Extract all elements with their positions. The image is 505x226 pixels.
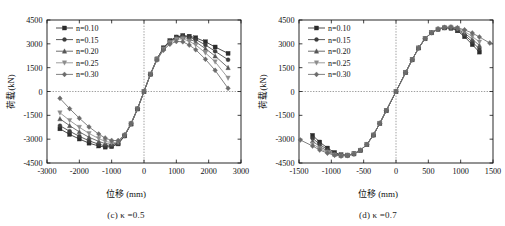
legend-label-n=0.15: n=0.15 [328,36,351,45]
panel-c: -3000-2000-10000100020003000-4500-3000-1… [0,0,252,226]
caption-panel-d: (d) κ =0.7 [252,210,504,220]
y-axis-tick-label: -1500 [23,111,42,120]
x-axis-tick-label: 1500 [485,167,501,176]
legend-label-n=0.25: n=0.25 [76,59,99,68]
y-axis-tick-label: 0 [38,88,42,97]
data-point-marker-square [63,26,67,30]
legend-label-n=0.10: n=0.10 [76,24,99,33]
x-axis-tick-label: 0 [394,167,398,176]
y-axis-tick-label: 3000 [26,40,42,49]
caption-panel-c: (c) κ =0.5 [0,210,252,220]
x-axis-title-panel-d: 位移 (mm) [252,187,504,200]
x-axis-tick-label: 1000 [452,167,468,176]
y-axis-tick-label: -1500 [275,111,294,120]
data-point-marker-circle [213,49,217,53]
legend-label-n=0.25: n=0.25 [328,59,351,68]
y-axis-tick-label: -3000 [23,135,42,144]
y-axis-tick-label: 1500 [26,64,42,73]
x-axis-tick-label: -500 [356,167,371,176]
data-point-marker-circle [315,38,319,42]
legend-label-n=0.20: n=0.20 [328,47,351,56]
x-axis-tick-label: 0 [142,167,146,176]
data-point-marker-square [226,51,230,55]
panel-d: -1500-1000-500050010001500-4500-3000-150… [252,0,504,226]
x-axis-tick-label: 3000 [233,167,249,176]
y-axis-tick-label: -4500 [275,159,294,168]
data-point-marker-square [315,26,319,30]
y-axis-tick-label: 3000 [278,40,294,49]
x-axis-title-panel-c: 位移 (mm) [0,187,252,200]
figure-container: -3000-2000-10000100020003000-4500-3000-1… [0,0,505,226]
y-axis-tick-label: -3000 [275,135,294,144]
x-axis-tick-label: -1000 [322,167,341,176]
y-axis-title: 荷载(kN) [257,74,268,108]
x-axis-tick-label: -2000 [70,167,89,176]
data-point-marker-circle [68,129,72,133]
data-point-marker-circle [63,38,67,42]
data-point-marker-square [213,45,217,49]
legend-label-n=0.30: n=0.30 [76,70,99,79]
legend-label-n=0.10: n=0.10 [328,24,351,33]
data-point-marker-circle [77,134,81,138]
y-axis-tick-label: 4500 [26,16,42,25]
x-axis-tick-label: 500 [422,167,434,176]
y-axis-title: 荷载(kN) [5,74,16,108]
legend-label-n=0.30: n=0.30 [328,70,351,79]
legend-label-n=0.15: n=0.15 [76,36,99,45]
data-point-marker-circle [58,124,62,128]
y-axis-tick-label: 1500 [278,64,294,73]
y-axis-tick-label: -4500 [23,159,42,168]
data-point-marker-circle [226,58,230,62]
x-axis-tick-label: 1000 [168,167,184,176]
legend-label-n=0.20: n=0.20 [76,47,99,56]
x-axis-tick-label: -1000 [102,167,121,176]
x-axis-tick-label: 2000 [200,167,216,176]
y-axis-tick-label: 0 [290,88,294,97]
y-axis-tick-label: 4500 [278,16,294,25]
